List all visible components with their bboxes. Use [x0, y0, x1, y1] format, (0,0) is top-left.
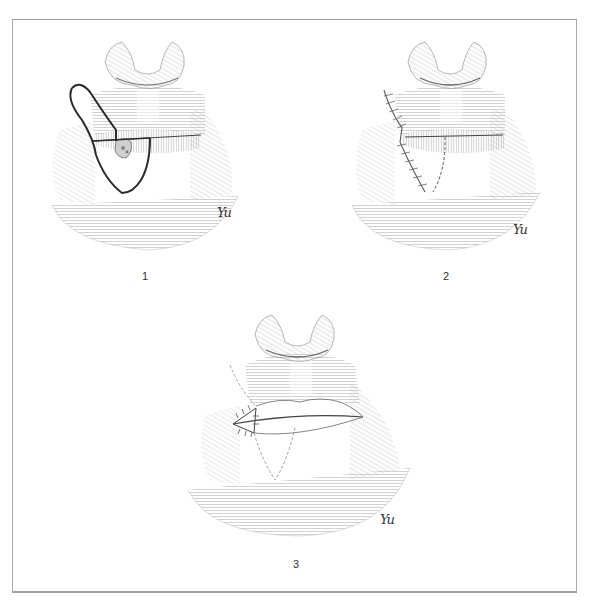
- panel-1-illustration: Yu 1: [0, 0, 300, 300]
- artist-signature: Yu: [217, 205, 231, 220]
- panel-2-illustration: Yu 2: [300, 0, 592, 300]
- panel-3-illustration: Yu 3: [150, 290, 450, 590]
- artist-signature: Yu: [513, 222, 527, 237]
- face-illustration: [150, 290, 450, 590]
- panel-label: 1: [135, 270, 155, 282]
- artist-signature: Yu: [380, 512, 394, 527]
- panel-label: 3: [286, 558, 306, 570]
- face-illustration: [0, 0, 300, 300]
- panel-label: 2: [436, 270, 456, 282]
- face-illustration: [300, 0, 592, 300]
